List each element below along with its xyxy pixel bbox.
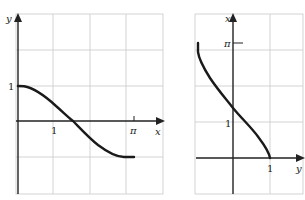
- left-y-axis-label: y: [5, 13, 12, 24]
- left-chart: y 1 1 π x: [5, 13, 165, 194]
- right-y-tick-pi: π: [223, 38, 231, 49]
- right-horizontal-axis-label: y: [295, 163, 302, 174]
- right-horizontal-axis-arrow-icon: [296, 154, 305, 162]
- right-grid: [195, 14, 303, 194]
- left-grid: [16, 14, 163, 194]
- right-vertical-axis-label: x: [225, 13, 231, 24]
- right-arccos-curve: [198, 43, 270, 158]
- left-x-tick-1: 1: [51, 125, 57, 136]
- left-x-axis-arrow-icon: [156, 117, 165, 125]
- right-y-tick-1: 1: [225, 118, 231, 129]
- right-x-tick-1: 1: [267, 163, 273, 174]
- left-y-tick-1: 1: [8, 81, 14, 92]
- left-x-tick-pi: π: [129, 125, 137, 136]
- left-x-axis-label: x: [155, 126, 161, 137]
- figure-canvas: y 1 1 π x x π 1 1 y: [0, 0, 305, 200]
- right-chart: x π 1 1 y: [195, 13, 305, 194]
